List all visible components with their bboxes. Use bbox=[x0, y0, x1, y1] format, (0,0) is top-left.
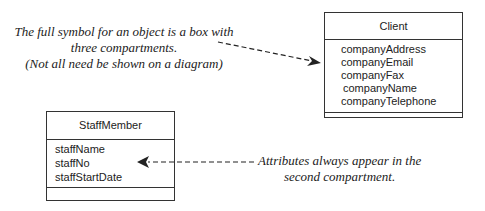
dashed-arrow-to-staff-member bbox=[137, 156, 254, 168]
arrowhead-icon bbox=[307, 56, 321, 66]
dashed-arrow-to-client bbox=[218, 42, 321, 66]
arrows-layer bbox=[0, 0, 485, 211]
arrowhead-icon bbox=[137, 156, 149, 168]
